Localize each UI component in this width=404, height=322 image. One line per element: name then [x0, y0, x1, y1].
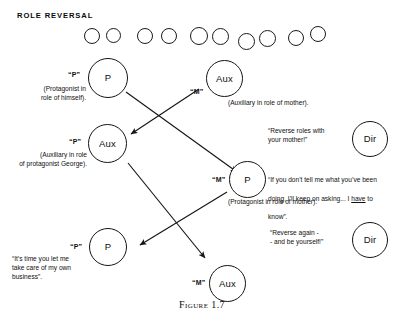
node-p-top[interactable]: P [88, 58, 128, 98]
node-p-bottom-letter: P [105, 242, 112, 252]
role-reversal-figure: ROLE REVERSAL P “P” (Protagonist in role… [0, 0, 404, 322]
node-p-bottom-caption: “It’s time you let me take care of my ow… [12, 254, 97, 282]
node-aux-top-right-tag: “M” [190, 88, 203, 95]
node-dir-lower-letter: Dir [364, 235, 377, 245]
node-p-top-letter: P [105, 73, 112, 83]
node-dir-lower[interactable]: Dir [352, 222, 388, 258]
node-p-middle-letter: P [244, 175, 251, 185]
arrow-p-middle-to-p-bottom [140, 192, 227, 245]
figure-caption: Figure 1.7 [0, 299, 404, 310]
node-aux-left-tag: “P” [69, 138, 81, 145]
node-dir-upper-letter: Dir [364, 134, 377, 144]
node-p-middle-tag: “M” [212, 176, 225, 183]
node-aux-top-right-caption: (Auxiliary in role of mother). [228, 98, 398, 107]
arrow-aux-top-to-aux-left [131, 89, 199, 134]
node-aux-bottom-letter: Aux [219, 279, 236, 289]
quote-line-1: “If you don’t tell me what you’ve been [268, 176, 377, 183]
node-p-top-tag: “P” [68, 71, 80, 78]
node-aux-left[interactable]: Aux [88, 124, 127, 163]
node-aux-top-right-letter: Aux [216, 74, 233, 84]
arrow-p-top-to-p-middle [126, 92, 237, 172]
node-dir-upper[interactable]: Dir [352, 121, 388, 157]
arrow-aux-left-to-aux-bottom [128, 163, 205, 258]
node-dir-lower-caption: “Reverse again - - and be yourself!” [270, 228, 354, 246]
protagonist-as-mother-role-caption: (Protagonist in role of mother). [228, 197, 404, 206]
node-aux-left-letter: Aux [99, 139, 116, 149]
node-aux-bottom-tag: “M” [192, 279, 205, 286]
quote-line-3: know”. [268, 213, 287, 220]
node-aux-left-caption: (Auxiliary in role of protagonist George… [0, 150, 87, 168]
node-p-bottom-tag: “P” [70, 243, 82, 250]
protagonist-as-mother-quote: “If you don’t tell me what you’ve been d… [268, 166, 404, 221]
node-aux-top-right[interactable]: Aux [206, 60, 243, 97]
node-dir-upper-caption: “Reverse roles with your mother!” [268, 126, 354, 144]
node-p-top-caption: (Protagonist in role of himself). [0, 84, 86, 102]
node-p-middle[interactable]: P [229, 161, 266, 198]
node-aux-bottom[interactable]: Aux [209, 265, 246, 302]
